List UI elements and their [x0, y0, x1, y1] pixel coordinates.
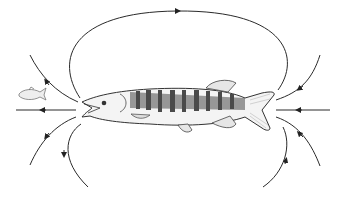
top-loop-flow-line: [70, 11, 288, 98]
prey-fish-icon: [19, 87, 46, 100]
right-upper-flow-line: [276, 55, 320, 100]
pike-fish-illustration: [82, 80, 274, 132]
right-inner-flow-line: [263, 127, 287, 187]
right-lower-flow-line: [276, 117, 320, 166]
flow-diagram: [0, 0, 341, 201]
diagram-canvas: [0, 0, 341, 201]
left-inner-flow-line: [68, 124, 88, 187]
